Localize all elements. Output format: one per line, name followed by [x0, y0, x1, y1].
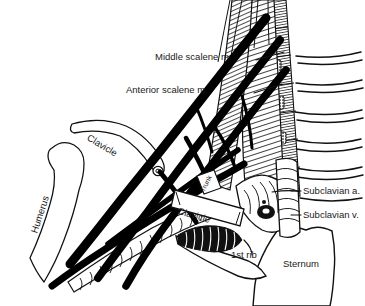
- rib-arcs: [294, 52, 363, 201]
- label-first-rib: 1st rib: [231, 250, 257, 260]
- anatomical-illustration: Middle scalene m. Anterior scalene m. Cl…: [0, 0, 365, 306]
- label-subclavian-vein: Subclavian v.: [303, 210, 359, 220]
- label-subclavian-artery: Subclavian a.: [303, 186, 360, 196]
- label-middle-scalene: Middle scalene m.: [155, 52, 232, 62]
- subclavian-vein: [276, 158, 300, 237]
- vessel-node: [257, 205, 275, 219]
- label-anterior-scalene: Anterior scalene m.: [126, 85, 208, 95]
- label-sternum: Sternum: [283, 259, 319, 269]
